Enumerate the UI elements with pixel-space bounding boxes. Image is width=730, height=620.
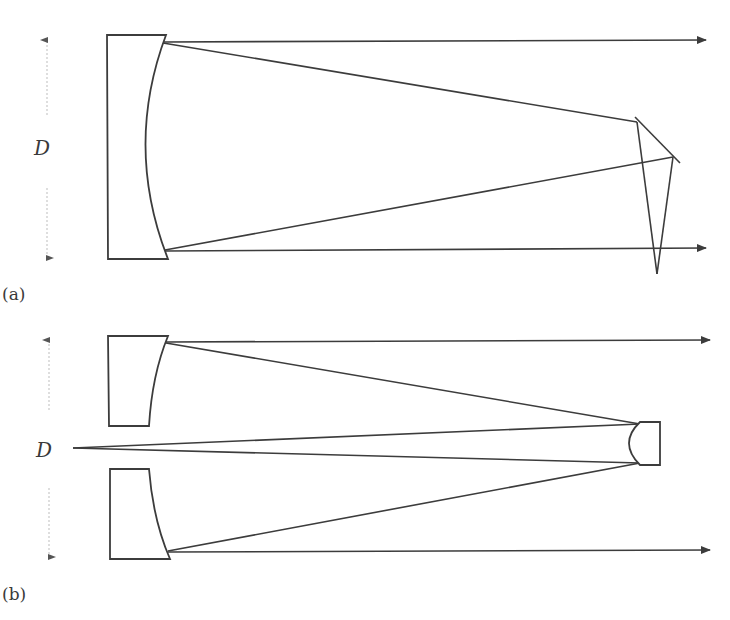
ray-upper [163,43,637,122]
ray-lower [168,463,640,551]
secondary-mirror [629,422,660,465]
dimension-label-d: D [33,136,50,160]
secondary-prism [635,117,680,274]
beam-top [166,340,710,342]
ray-lower [165,157,673,250]
panel-label-b: (b) [2,584,26,604]
panel-b: D (b) [2,336,710,604]
dimension-label-d: D [35,438,52,462]
primary-mirror-bottom [110,469,170,559]
ray-upper [166,343,640,424]
primary-mirror-top [108,336,168,426]
beam-top [163,40,706,42]
optical-diagram: D (a) D [0,0,730,620]
beam-bottom [168,550,710,552]
ray-focus-lower [73,448,640,463]
beam-bottom [165,248,706,251]
panel-a: D (a) [2,35,706,304]
panel-label-a: (a) [2,284,25,304]
primary-mirror [107,35,168,259]
ray-focus-upper [73,424,640,448]
